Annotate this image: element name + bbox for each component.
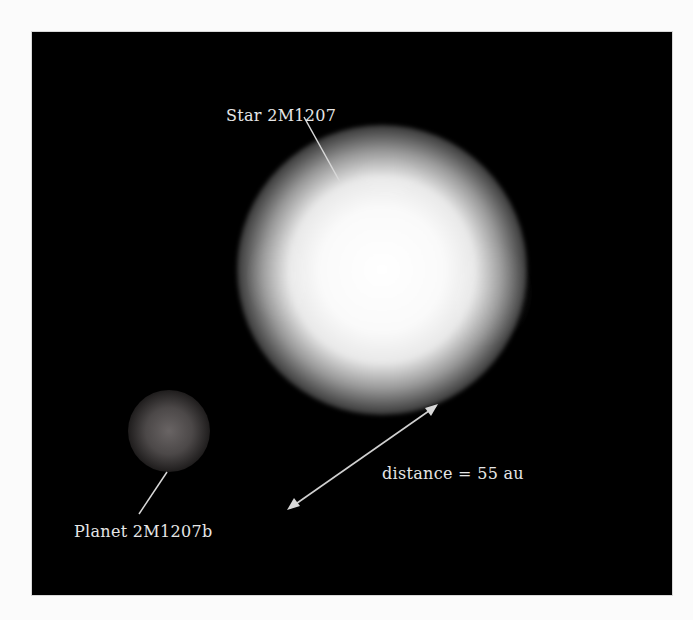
planet-2m1207b — [128, 390, 210, 472]
distance-arrow-icon — [287, 404, 438, 510]
distance-label: distance = 55 au — [382, 464, 524, 483]
planet-label: Planet 2M1207b — [74, 522, 212, 541]
star-label: Star 2M1207 — [226, 106, 336, 125]
planet-leader-line — [139, 472, 167, 514]
image-panel: Star 2M1207 Planet 2M1207b distance = 55… — [32, 32, 672, 595]
star-2m1207 — [237, 125, 527, 415]
figure-canvas: Star 2M1207 Planet 2M1207b distance = 55… — [0, 0, 693, 620]
